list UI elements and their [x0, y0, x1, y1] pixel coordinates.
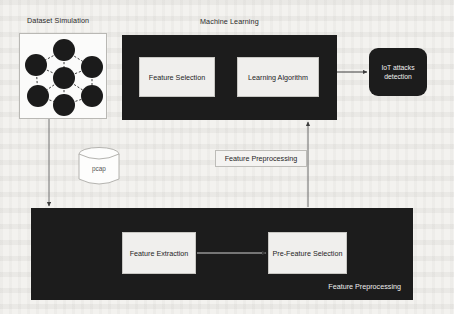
machine-learning-title: Machine Learning — [200, 17, 259, 26]
iot-attacks-detection-node: IoT attacks detection — [369, 48, 427, 96]
pre-feature-selection-node: Pre-Feature Selection — [268, 232, 347, 274]
dataset-simulation-title: Dataset Simulation — [27, 16, 89, 25]
diagram-canvas: Dataset Simulation — [0, 0, 454, 314]
feature-extraction-node: Feature Extraction — [122, 232, 196, 274]
iot-attacks-detection-line1: IoT attacks — [381, 63, 414, 73]
feature-preprocessing-label-box: Feature Preprocessing — [215, 150, 307, 167]
pcap-datastore: pcap — [74, 146, 124, 190]
feature-preprocessing-caption: Feature Preprocessing — [328, 282, 401, 291]
machine-learning-container: Feature Selection Learning Algorithm — [122, 35, 337, 120]
iot-attacks-detection-line2: detection — [381, 72, 414, 82]
feature-selection-node: Feature Selection — [139, 57, 215, 97]
dataset-simulation-panel — [19, 33, 107, 119]
feature-preprocessing-container: Feature Extraction Pre-Feature Selection… — [31, 208, 413, 300]
neural-network-graphic — [20, 34, 106, 118]
learning-algorithm-node: Learning Algorithm — [237, 57, 319, 97]
pcap-label: pcap — [74, 165, 124, 172]
